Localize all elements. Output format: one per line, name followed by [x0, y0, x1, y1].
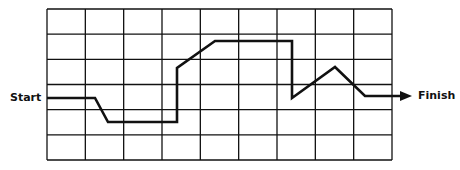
arrow-head-icon	[400, 91, 412, 101]
grid	[47, 9, 392, 160]
start-label: Start	[10, 91, 41, 104]
finish-label: Finish	[418, 89, 455, 102]
grid-diagram	[0, 0, 460, 170]
